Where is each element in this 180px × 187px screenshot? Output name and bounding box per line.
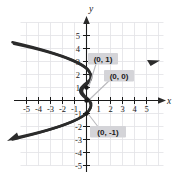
y-tick-label: -2 bbox=[75, 122, 82, 132]
annotation-label: (0, 1) bbox=[94, 55, 113, 64]
y-tick-label: -5 bbox=[75, 161, 82, 171]
coordinate-plane-svg: x y -5 -4 -3 -2 -1 1 2 3 4 5 5 4 3 2 1 -… bbox=[0, 0, 180, 187]
point-0-1 bbox=[84, 85, 89, 90]
y-tick-label: -3 bbox=[75, 135, 82, 145]
x-tick-label: 1 bbox=[96, 104, 100, 114]
x-axis-label: x bbox=[166, 96, 172, 106]
x-tick-label: -3 bbox=[47, 104, 54, 114]
x-tick-label: -5 bbox=[23, 104, 30, 114]
x-tick-label: 5 bbox=[144, 104, 148, 114]
point-0-0 bbox=[84, 98, 89, 103]
y-tick-label: 2 bbox=[76, 70, 80, 80]
y-tick-label: 5 bbox=[76, 31, 80, 41]
annotation-0-1: (0, 1) bbox=[88, 53, 118, 65]
x-tick-label: -4 bbox=[35, 104, 43, 114]
annotation-0-0: (0, 0) bbox=[104, 70, 134, 82]
x-tick-label: 4 bbox=[132, 104, 137, 114]
grid-lines bbox=[21, 23, 164, 166]
annotation-label: (0, 0) bbox=[110, 72, 129, 81]
x-tick-label: 3 bbox=[120, 104, 124, 114]
annotation-0-minus-1: (0, -1) bbox=[90, 126, 126, 138]
annotation-label: (0, -1) bbox=[97, 128, 119, 137]
point-0-minus-1 bbox=[84, 111, 89, 116]
y-axis-label: y bbox=[88, 4, 94, 14]
x-tick-label: -2 bbox=[59, 104, 66, 114]
graph-figure: x y -5 -4 -3 -2 -1 1 2 3 4 5 5 4 3 2 1 -… bbox=[0, 0, 180, 187]
y-tick-label: -4 bbox=[75, 148, 83, 158]
x-tick-label: 2 bbox=[108, 104, 112, 114]
